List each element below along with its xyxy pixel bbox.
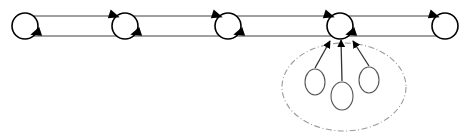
diagram-canvas	[0, 0, 467, 137]
node-link-diagram	[0, 0, 467, 137]
cluster-node-3[interactable]	[359, 67, 379, 93]
chain-arrow-top-5	[428, 9, 440, 18]
cluster-node-1[interactable]	[305, 69, 325, 95]
chain-arrow-top-3	[211, 9, 223, 18]
chain-arrow-top-2	[108, 9, 120, 18]
cluster-node-2[interactable]	[331, 82, 353, 110]
chain-nodes-layer	[12, 13, 458, 39]
chain-arrow-top-4	[323, 9, 335, 18]
cluster-layer	[282, 40, 406, 131]
